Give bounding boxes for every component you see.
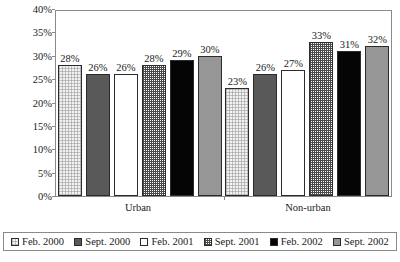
category-label-urban: Urban — [58, 202, 218, 213]
divider-tick — [224, 196, 225, 200]
bar-slot: 30% — [198, 11, 222, 196]
bar[interactable] — [58, 65, 82, 196]
bar-slot: 23% — [225, 11, 249, 196]
bar[interactable] — [225, 88, 249, 196]
category-label-non-urban: Non-urban — [228, 202, 388, 213]
legend-item[interactable]: Feb. 2001 — [140, 236, 193, 247]
legend-label: Feb. 2000 — [22, 236, 64, 247]
y-axis-tick-mark — [52, 149, 55, 150]
y-axis-tick-mark — [52, 173, 55, 174]
bar-slot: 32% — [365, 11, 389, 196]
bar-group-urban: 28%26%26%28%29%30% — [56, 11, 224, 196]
legend-label: Feb. 2002 — [281, 236, 323, 247]
legend-swatch-icon — [74, 238, 82, 246]
legend-label: Sept. 2000 — [85, 236, 130, 247]
legend-item[interactable]: Sept. 2000 — [74, 236, 130, 247]
bar-slot: 26% — [86, 11, 110, 196]
y-axis-tick-label: 20% — [18, 98, 52, 109]
bar-value-label: 30% — [193, 44, 227, 55]
y-axis-tick-label: 0% — [18, 191, 52, 202]
bar-slot: 26% — [253, 11, 277, 196]
y-axis-tick-mark — [52, 126, 55, 127]
bar-slot: 28% — [58, 11, 82, 196]
bar[interactable] — [170, 60, 194, 196]
bar-slot: 28% — [142, 11, 166, 196]
bar[interactable] — [114, 74, 138, 196]
bar-value-label: 23% — [220, 76, 254, 87]
y-axis-tick-mark — [52, 32, 55, 33]
bar-slot: 26% — [114, 11, 138, 196]
bar[interactable] — [281, 70, 305, 196]
legend-swatch-icon — [204, 238, 212, 246]
bar-value-label: 27% — [276, 58, 310, 69]
bar[interactable] — [253, 74, 277, 196]
legend-swatch-icon — [140, 238, 148, 246]
bar-group-non-urban: 23%26%27%33%31%32% — [224, 11, 392, 196]
chart-legend: Feb. 2000Sept. 2000Feb. 2001Sept. 2001Fe… — [3, 232, 397, 251]
bar[interactable] — [86, 74, 110, 196]
legend-swatch-icon — [11, 238, 19, 246]
legend-swatch-icon — [333, 238, 341, 246]
y-axis-tick-label: 25% — [18, 74, 52, 85]
bar[interactable] — [309, 42, 333, 196]
bar-slot: 31% — [337, 11, 361, 196]
bar[interactable] — [337, 51, 361, 196]
bar-slot: 27% — [281, 11, 305, 196]
y-axis-tick-label: 40% — [18, 4, 52, 15]
y-axis-tick-mark — [52, 9, 55, 10]
bar[interactable] — [198, 56, 222, 196]
legend-label: Sept. 2001 — [215, 236, 260, 247]
y-axis-tick-labels: 40%35%30%25%20%15%10%5%0% — [18, 0, 52, 210]
y-axis-tick-mark — [52, 196, 55, 197]
legend-item[interactable]: Feb. 2000 — [11, 236, 64, 247]
legend-item[interactable]: Sept. 2001 — [204, 236, 260, 247]
y-axis-tick-mark — [52, 56, 55, 57]
legend-label: Sept. 2002 — [344, 236, 389, 247]
legend-item[interactable]: Sept. 2002 — [333, 236, 389, 247]
bar[interactable] — [365, 46, 389, 196]
legend-swatch-icon — [270, 238, 278, 246]
legend-label: Feb. 2001 — [151, 236, 193, 247]
bar-slot: 33% — [309, 11, 333, 196]
bar-slot: 29% — [170, 11, 194, 196]
plot-area: 28%26%26%28%29%30% 23%26%27%33%31%32% — [55, 10, 392, 197]
bar-value-label: 32% — [360, 34, 394, 45]
y-axis-tick-label: 5% — [18, 168, 52, 179]
bar-chart: Unemployment rate 40%35%30%25%20%15%10%5… — [0, 0, 400, 262]
y-axis-tick-label: 35% — [18, 27, 52, 38]
y-axis-tick-mark — [52, 103, 55, 104]
y-axis-tick-label: 15% — [18, 121, 52, 132]
y-axis-tick-mark — [52, 79, 55, 80]
bar[interactable] — [142, 65, 166, 196]
y-axis-tick-label: 30% — [18, 51, 52, 62]
y-axis-tick-label: 10% — [18, 144, 52, 155]
legend-item[interactable]: Feb. 2002 — [270, 236, 323, 247]
